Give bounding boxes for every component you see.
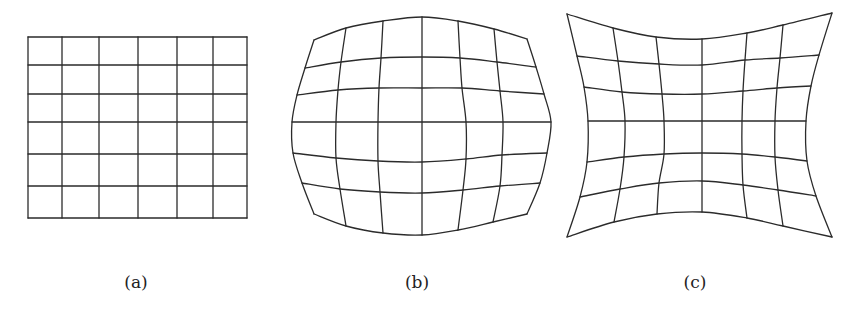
vertical-gridline [806, 13, 832, 237]
horizontal-gridline [567, 13, 832, 39]
panel-c-pincushion-distortion-grid [567, 13, 832, 237]
vertical-gridline [775, 25, 783, 226]
panel-a-regular-grid [28, 37, 247, 218]
horizontal-gridline [297, 88, 544, 95]
horizontal-gridline [577, 55, 819, 65]
panel-b-barrel-distortion-grid [292, 17, 552, 235]
vertical-gridline [613, 28, 625, 222]
panel-label-a: (a) [124, 270, 147, 294]
vertical-gridline [336, 28, 346, 226]
panel-label-b: (b) [405, 270, 429, 294]
horizontal-gridline [302, 183, 540, 193]
vertical-gridline [378, 21, 383, 233]
vertical-gridline [292, 40, 314, 214]
vertical-gridline [567, 14, 588, 237]
panel-label-c: (c) [684, 270, 707, 294]
horizontal-gridline [305, 57, 536, 68]
horizontal-gridline [580, 181, 816, 197]
vertical-gridline [493, 29, 503, 222]
vertical-gridline [458, 21, 466, 230]
vertical-gridline [527, 39, 551, 214]
grid-distortion-figure [0, 0, 859, 316]
horizontal-gridline [567, 212, 832, 237]
horizontal-gridline [293, 153, 547, 162]
horizontal-gridline [587, 153, 807, 162]
